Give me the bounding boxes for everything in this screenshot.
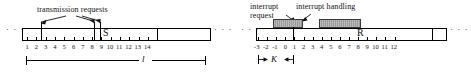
tick-mark [46, 37, 47, 40]
left-interval-cap-start [26, 56, 27, 65]
left-rail-bottom [22, 40, 210, 41]
left-rail-start-cap [22, 28, 23, 41]
tick-label: 14 [144, 43, 151, 50]
tick-label: 1 [25, 43, 28, 50]
tick-mark [92, 37, 93, 40]
tick-mark [27, 37, 28, 40]
tick-label: 12 [125, 43, 132, 50]
left-request-stem-2 [94, 22, 95, 40]
tick-mark [148, 37, 149, 40]
left-frame-boundary [157, 28, 158, 41]
left-ellipsis-end: · · · [214, 24, 233, 34]
left-marker-letter-s: S [103, 27, 109, 38]
left-interval-bar-a [26, 60, 139, 61]
left-timeline-panel: transmission requests · · · · · · S [0, 0, 236, 73]
left-request-stem-1 [41, 22, 42, 40]
tick-label: 9 [100, 43, 103, 50]
tick-mark [74, 37, 75, 40]
right-interval-label-k: K [271, 54, 277, 64]
left-interval-label-l: l [142, 54, 145, 64]
tick-label: 4 [53, 43, 56, 50]
tick-mark [120, 37, 121, 40]
right-timeline-panel: interrupt request interrupt handling · ·… [236, 0, 471, 73]
left-interval-cap-end [205, 56, 206, 65]
left-rail-end-cap [210, 28, 211, 41]
left-arrow-leaders [0, 0, 236, 40]
tick-mark [139, 37, 140, 40]
tick-label: 2 [35, 43, 38, 50]
tick-mark [55, 37, 56, 40]
tick-mark [83, 37, 84, 40]
tick-label: 11 [116, 43, 122, 50]
tick-mark [129, 37, 130, 40]
tick-mark [111, 37, 112, 40]
tick-label: 5 [63, 43, 66, 50]
tick-label: 7 [81, 43, 84, 50]
figure-root: transmission requests · · · · · · S [0, 0, 471, 73]
left-interval-bar-b [152, 60, 205, 61]
tick-label: 6 [72, 43, 75, 50]
tick-label: 3 [44, 43, 47, 50]
tick-label: 8 [91, 43, 94, 50]
tick-mark [36, 37, 37, 40]
tick-label: 10 [107, 43, 114, 50]
left-rail-top [22, 28, 210, 29]
tick-mark [101, 37, 102, 40]
tick-label: 13 [135, 43, 142, 50]
tick-mark [64, 37, 65, 40]
